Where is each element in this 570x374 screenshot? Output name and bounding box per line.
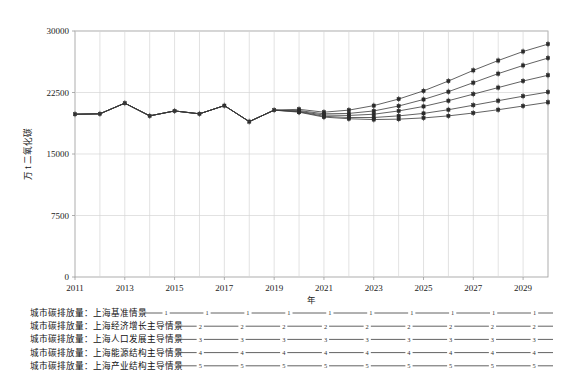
legend-marker-number: 2 bbox=[407, 323, 410, 330]
legend-marker-number: 3 bbox=[491, 336, 494, 343]
legend-marker-number: 2 bbox=[533, 323, 536, 330]
x-tick-label: 2011 bbox=[66, 283, 84, 293]
x-tick-label: 2013 bbox=[116, 283, 135, 293]
legend-marker-number: 1 bbox=[369, 309, 372, 316]
x-axis: 2011201320152017201920212023202520272029 bbox=[66, 277, 532, 293]
y-tick-label: 7500 bbox=[51, 211, 70, 221]
legend-marker-number: 5 bbox=[324, 362, 327, 369]
legend-marker-number: 2 bbox=[282, 323, 285, 330]
y-tick-label: 0 bbox=[65, 272, 70, 282]
y-axis-title: 万 t 二氧化碳 bbox=[22, 128, 33, 180]
legend-marker-number: 1 bbox=[246, 309, 249, 316]
legend: 城市碳排放量：上海基准情景1111111111城市碳排放量：上海经济增长主导情景… bbox=[30, 307, 553, 371]
x-tick-label: 2023 bbox=[365, 283, 384, 293]
legend-marker-number: 1 bbox=[492, 309, 495, 316]
x-tick-label: 2025 bbox=[415, 283, 434, 293]
legend-label[interactable]: 城市碳排放量：上海人口发展主导情景 bbox=[30, 333, 183, 344]
legend-label[interactable]: 城市碳排放量：上海产业结构主导情景 bbox=[30, 360, 183, 371]
x-tick-label: 2015 bbox=[166, 283, 185, 293]
legend-marker-number: 1 bbox=[533, 309, 536, 316]
legend-marker-number: 2 bbox=[491, 323, 494, 330]
legend-marker-number: 1 bbox=[410, 309, 413, 316]
legend-marker-number: 2 bbox=[199, 323, 202, 330]
legend-label[interactable]: 城市碳排放量：上海基准情景 bbox=[30, 307, 147, 318]
legend-marker-number: 5 bbox=[407, 362, 410, 369]
chart-canvas: 0750015000225003000020112013201520172019… bbox=[0, 0, 570, 374]
legend-marker-number: 1 bbox=[328, 309, 331, 316]
y-tick-label: 22500 bbox=[47, 88, 70, 98]
legend-marker-number: 2 bbox=[449, 323, 452, 330]
legend-marker-number: 3 bbox=[449, 336, 452, 343]
legend-marker-number: 3 bbox=[366, 336, 369, 343]
x-tick-label: 2017 bbox=[215, 283, 234, 293]
legend-marker-number: 1 bbox=[287, 309, 290, 316]
y-axis: 07500150002250030000 bbox=[47, 26, 76, 282]
x-axis-title: 年 bbox=[307, 295, 316, 305]
legend-marker-number: 3 bbox=[240, 336, 243, 343]
legend-marker-number: 1 bbox=[164, 309, 167, 316]
x-tick-label: 2027 bbox=[464, 283, 483, 293]
y-tick-label: 30000 bbox=[47, 26, 70, 36]
legend-marker-number: 5 bbox=[282, 362, 285, 369]
legend-label[interactable]: 城市碳排放量：上海能源结构主导情景 bbox=[30, 347, 183, 358]
legend-marker-number: 3 bbox=[282, 336, 285, 343]
legend-marker-number: 5 bbox=[199, 362, 202, 369]
legend-marker-number: 5 bbox=[533, 362, 536, 369]
legend-marker-number: 2 bbox=[240, 323, 243, 330]
carbon-emission-chart: 0750015000225003000020112013201520172019… bbox=[0, 0, 570, 374]
legend-marker-number: 1 bbox=[451, 309, 454, 316]
legend-marker-number: 5 bbox=[366, 362, 369, 369]
legend-marker-number: 3 bbox=[324, 336, 327, 343]
legend-marker-number: 2 bbox=[324, 323, 327, 330]
x-tick-label: 2029 bbox=[514, 283, 533, 293]
x-tick-label: 2019 bbox=[265, 283, 284, 293]
legend-label[interactable]: 城市碳排放量：上海经济增长主导情景 bbox=[30, 320, 183, 331]
legend-marker-number: 3 bbox=[533, 336, 536, 343]
legend-marker-number: 1 bbox=[205, 309, 208, 316]
legend-marker-number: 5 bbox=[491, 362, 494, 369]
x-tick-label: 2021 bbox=[315, 283, 333, 293]
legend-marker-number: 5 bbox=[449, 362, 452, 369]
legend-marker-number: 3 bbox=[199, 336, 202, 343]
legend-marker-number: 3 bbox=[407, 336, 410, 343]
y-tick-label: 15000 bbox=[47, 149, 70, 159]
legend-marker-number: 2 bbox=[366, 323, 369, 330]
legend-marker-number: 5 bbox=[240, 362, 243, 369]
